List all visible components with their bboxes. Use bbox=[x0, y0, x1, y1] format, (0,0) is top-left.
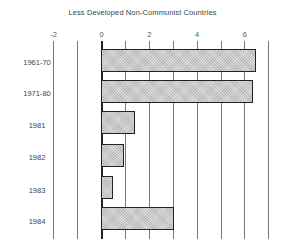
gridline bbox=[268, 41, 269, 239]
category-label: 1981 bbox=[6, 121, 68, 130]
bar-1984 bbox=[102, 207, 174, 230]
bar-1961-70 bbox=[102, 49, 256, 72]
bar-1971-80 bbox=[102, 80, 253, 103]
category-label: 1961-70 bbox=[6, 58, 68, 67]
bar-1982 bbox=[102, 144, 124, 167]
gridline bbox=[53, 41, 54, 239]
x-tick-label: 2 bbox=[147, 30, 151, 39]
x-tick-label: 4 bbox=[195, 30, 199, 39]
x-tick-label: 6 bbox=[243, 30, 247, 39]
x-tick-label: -2 bbox=[50, 30, 57, 39]
gridline bbox=[77, 41, 78, 239]
category-label: 1971-80 bbox=[6, 89, 68, 98]
category-label: 1982 bbox=[6, 153, 68, 162]
bar-1983 bbox=[102, 176, 113, 199]
bar-1981 bbox=[102, 111, 135, 134]
chart-title: Less Developed Non-Communist Countries bbox=[0, 8, 285, 17]
category-label: 1984 bbox=[6, 217, 68, 226]
category-label: 1983 bbox=[6, 186, 68, 195]
x-tick-label: 0 bbox=[99, 30, 103, 39]
